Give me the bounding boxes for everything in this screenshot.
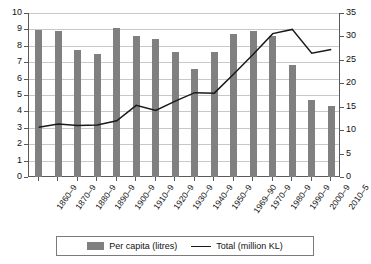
y-axis-right: 05101520253035 [346, 0, 370, 264]
x-axis-tick [96, 177, 97, 181]
line-series [29, 13, 341, 177]
y-left-tick-label: 5 [1, 90, 22, 99]
y-left-tick-label: 10 [1, 8, 22, 17]
plot-area [28, 13, 340, 177]
legend-label-per-capita: Per capita (litres) [109, 241, 177, 251]
x-axis-tick [291, 177, 292, 181]
y-left-tick-label: 8 [1, 41, 22, 50]
y-left-tick-label: 1 [1, 156, 22, 165]
bar-swatch-icon [87, 242, 104, 250]
y-right-tick-label: 15 [346, 102, 356, 111]
x-axis-tick [174, 177, 175, 181]
legend-item-total: Total (million KL) [191, 241, 283, 251]
x-axis-tick [233, 177, 234, 181]
y-left-tick-label: 3 [1, 123, 22, 132]
y-right-tick-label: 25 [346, 55, 356, 64]
x-axis-tick [311, 177, 312, 181]
x-axis-tick [38, 177, 39, 181]
legend-item-per-capita: Per capita (litres) [87, 241, 177, 251]
line-path [39, 29, 332, 127]
x-axis-tick [330, 177, 331, 181]
y-left-tick-label: 9 [1, 24, 22, 33]
y-axis-left: 012345678910 [0, 0, 22, 264]
line-swatch-icon [191, 246, 211, 247]
x-axis-tick [272, 177, 273, 181]
x-axis-tick [135, 177, 136, 181]
y-right-tick-label: 35 [346, 8, 356, 17]
y-right-tick-label: 30 [346, 31, 356, 40]
x-axis-tick [155, 177, 156, 181]
y-right-tick-label: 5 [346, 149, 351, 158]
legend-label-total: Total (million KL) [216, 241, 283, 251]
y-left-tick-label: 0 [1, 172, 22, 181]
chart-legend: Per capita (litres) Total (million KL) [56, 236, 314, 256]
x-axis-tick [77, 177, 78, 181]
x-axis-tick [194, 177, 195, 181]
y-right-tick-label: 0 [346, 172, 351, 181]
y-left-tick-label: 7 [1, 57, 22, 66]
y-right-tick-label: 20 [346, 78, 356, 87]
x-axis-tick [252, 177, 253, 181]
y-left-tick-label: 4 [1, 106, 22, 115]
y-left-tick-label: 2 [1, 139, 22, 148]
x-axis-tick [213, 177, 214, 181]
y-right-tick-label: 10 [346, 125, 356, 134]
x-axis-tick [116, 177, 117, 181]
y-left-tick-label: 6 [1, 74, 22, 83]
x-axis-tick [57, 177, 58, 181]
